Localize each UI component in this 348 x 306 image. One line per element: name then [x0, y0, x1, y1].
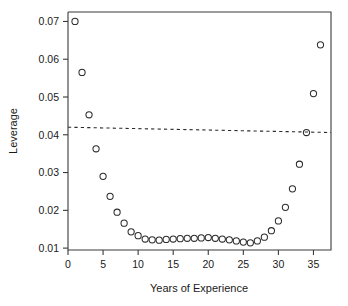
- data-point: [317, 42, 323, 48]
- y-tick-label: 0.02: [39, 204, 60, 216]
- data-point: [93, 146, 99, 152]
- y-tick-label: 0.05: [39, 91, 60, 103]
- data-point: [135, 233, 141, 239]
- y-axis-ticks: 0.010.020.030.040.050.060.07: [39, 15, 68, 254]
- data-point: [114, 209, 120, 215]
- data-point: [198, 235, 204, 241]
- data-point: [142, 236, 148, 242]
- data-point: [296, 161, 302, 167]
- data-point: [219, 236, 225, 242]
- data-point: [212, 235, 218, 241]
- x-tick-label: 10: [132, 258, 144, 270]
- y-tick-label: 0.06: [39, 53, 60, 65]
- data-point: [247, 240, 253, 246]
- data-point: [226, 237, 232, 243]
- leverage-scatter-figure: 0.010.020.030.040.050.060.07 05101520253…: [0, 0, 348, 306]
- data-point: [184, 235, 190, 241]
- data-point: [156, 237, 162, 243]
- data-point: [310, 91, 316, 97]
- data-point: [191, 235, 197, 241]
- x-tick-label: 0: [65, 258, 71, 270]
- data-point: [163, 236, 169, 242]
- data-point: [72, 18, 78, 24]
- data-point: [86, 112, 92, 118]
- data-point: [254, 238, 260, 244]
- y-tick-label: 0.04: [39, 129, 60, 141]
- data-point: [177, 236, 183, 242]
- x-tick-label: 15: [167, 258, 179, 270]
- data-point: [233, 238, 239, 244]
- data-point: [79, 69, 85, 75]
- y-tick-label: 0.03: [39, 166, 60, 178]
- data-point: [121, 220, 127, 226]
- y-axis-title: Leverage: [7, 108, 19, 154]
- x-tick-label: 25: [237, 258, 249, 270]
- data-point: [170, 236, 176, 242]
- data-point: [261, 234, 267, 240]
- data-point: [205, 234, 211, 240]
- x-tick-label: 30: [273, 258, 285, 270]
- x-tick-label: 20: [202, 258, 214, 270]
- plot-frame: [68, 12, 331, 250]
- data-point: [107, 193, 113, 199]
- data-point: [100, 173, 106, 179]
- x-axis-title: Years of Experience: [150, 282, 248, 294]
- x-axis-ticks: 05101520253035: [65, 250, 319, 270]
- data-point: [275, 218, 281, 224]
- data-point: [289, 186, 295, 192]
- data-point: [282, 204, 288, 210]
- y-tick-label: 0.01: [39, 242, 60, 254]
- data-point: [128, 229, 134, 235]
- reference-line-path: [68, 127, 331, 132]
- plot-canvas: 0.010.020.030.040.050.060.07 05101520253…: [0, 0, 348, 306]
- data-point: [149, 237, 155, 243]
- data-point: [240, 239, 246, 245]
- reference-line: [68, 127, 331, 132]
- data-point: [268, 228, 274, 234]
- frame-box: [68, 12, 331, 250]
- x-tick-label: 35: [308, 258, 320, 270]
- y-tick-label: 0.07: [39, 15, 60, 27]
- x-tick-label: 5: [100, 258, 106, 270]
